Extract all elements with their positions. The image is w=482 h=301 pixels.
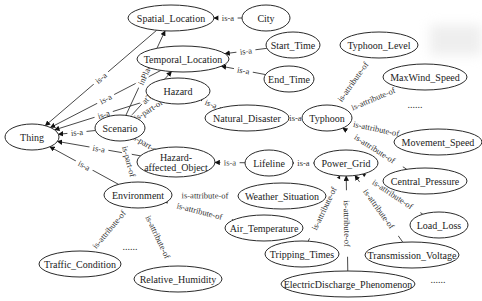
node-label: Typhoon_Level [347,40,410,51]
node-label: ElectricDischarge_Phenomenon [284,279,413,290]
node-label: Thing [20,132,44,143]
edge-environment-scenario: is-part-of [119,139,139,185]
edge-scenario-thing: is-a [58,127,95,138]
node-relative-humidity: Relative_Humidity [134,266,222,292]
node-label: Weather_Situation [245,191,319,202]
node-label: Load_Loss [417,220,462,231]
edge-tripping_times-power_grid: is-attribute-of [305,176,342,241]
node-label: Power_Grid [322,158,371,169]
edge-electricdischarge_phenomenon-power_grid: is-attribute-of [342,176,353,271]
node-maxwind-speed: MaxWind_Speed [383,64,467,90]
edge-air_temperature-environment: is-attribute-of [166,198,233,224]
node-label: Start_Time [271,40,316,51]
edge-label: is-attribute-of [182,190,229,200]
edge-weather_situation-environment: is-attribute-of [172,190,239,200]
node-tripping-times: Tripping_Times [265,241,339,267]
node-thing: Thing [5,124,59,150]
edge-label: is-a [70,127,83,138]
node-label: MaxWind_Speed [390,72,460,83]
more-ellipsis: ...... [123,241,138,252]
node-natural-disaster: Natural_Disaster [205,105,289,131]
node-label: Movement_Speed [402,137,475,148]
node-label: Transmission_Voltage [368,250,457,261]
edge-label: is-a [289,113,302,123]
edge-label: is-a [222,13,235,23]
node-label: Spatial_Location [137,13,205,24]
node-label: Air_Temperature [230,223,299,234]
node-power-grid: Power_Grid [314,150,378,176]
node-lifeline: Lifeline [245,150,293,176]
node-traffic-condition: Traffic_Condition [39,251,121,277]
node-label: Typhoon [309,113,344,124]
node-label: Scenario [103,123,138,134]
node-label: Environment [112,190,164,201]
node-start-time: Start_Time [266,32,320,58]
node-label: Traffic_Condition [44,259,116,270]
node-transmission-voltage: Transmission_Voltage [365,242,459,268]
edge-label: is-a [236,64,250,76]
node-label: Natural_Disaster [213,113,281,124]
node-label: Central_Pressure [391,176,460,187]
edge-label: is-part-of [120,145,138,178]
node-hazard: Hazard [146,78,210,104]
node-central-pressure: Central_Pressure [383,168,467,194]
edge-lifeline-hazard_affected_object: is-a [215,158,245,168]
node-label: City [257,13,274,24]
node-scenario: Scenario [95,115,145,141]
node-label: Lifeline [253,158,285,169]
edge-label: is-a [239,45,253,56]
edge-start_time-temporal_location: is-a [225,45,267,56]
edge-power_grid-lifeline: is-a [293,158,314,168]
edge-city-spatial_location: is-a [214,13,242,23]
node-label: Temporal_Location [144,54,223,65]
edge-label: is-a [92,143,106,155]
node-city: City [242,5,290,31]
node-label: affected_Object [144,162,208,173]
edge-label: is-attribute-of [176,200,224,222]
node-environment: Environment [104,182,172,208]
node-end-time: End_Time [264,66,314,92]
node-movement-speed: Movement_Speed [394,129,482,155]
edge-label: is-attribute-of [342,200,353,247]
node-label: End_Time [268,74,310,85]
edge-environment-thing: is-a [50,147,119,185]
node-hazard-affected-object: Hazard-affected_Object [137,147,215,177]
edge-label: is-attribute-of [143,214,172,261]
node-label: Hazard [164,86,193,97]
node-electricdischarge-phenomenon: ElectricDischarge_Phenomenon [281,271,415,297]
node-label: Relative_Humidity [140,274,217,285]
node-typhoon-level: Typhoon_Level [340,32,418,58]
node-typhoon: Typhoon [302,105,352,131]
edge-label: is-a [224,158,237,168]
node-load-loss: Load_Loss [410,212,468,238]
node-spatial-location: Spatial_Location [128,5,214,31]
node-air-temperature: Air_Temperature [225,215,303,241]
node-label: Tripping_Times [270,249,334,260]
ontology-diagram: is-ais-ais-ais-ais-ais-ainPlaceatTimeis-… [0,0,482,301]
edge-label: is-attribute-of [350,85,397,112]
node-weather-situation: Weather_Situation [238,183,326,209]
edge-end_time-temporal_location: is-a [221,64,265,76]
more-ellipsis: ...... [408,99,423,110]
edge-label: is-a [297,158,310,168]
edge-relative_humidity-environment: is-attribute-of [140,205,177,269]
more-ellipsis: ...... [431,274,446,285]
node-temporal-location: Temporal_Location [137,46,229,72]
